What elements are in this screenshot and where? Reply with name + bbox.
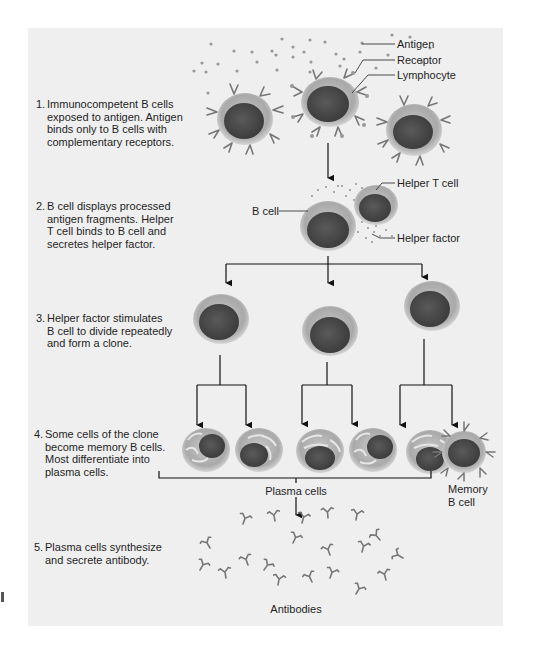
step-5-text: Plasma cells synthesize and secrete anti…: [45, 541, 162, 566]
label-antigen: Antigen: [397, 38, 434, 50]
edge-mark: [1, 592, 4, 602]
step-2-text: B cell displays processed antigen fragme…: [47, 200, 174, 250]
antibodies: [195, 508, 406, 597]
clone-branch-lines: [226, 256, 422, 283]
step-1-number: 1.: [36, 98, 45, 111]
memory-b-cell: [433, 422, 495, 481]
label-b-cell: B cell: [252, 205, 279, 217]
lymphocyte-right: [377, 96, 450, 165]
label-plasma-cells: Plasma cells: [256, 485, 336, 497]
leader-lines-top: [352, 44, 395, 93]
step-5-number: 5.: [34, 541, 43, 554]
step-4-number: 4.: [34, 428, 43, 441]
helper-t-cell: [354, 185, 398, 225]
b-cell: [300, 201, 356, 251]
label-helper-t-cell: Helper T cell: [397, 177, 458, 189]
plasma-cells: [182, 428, 454, 474]
lymphocyte-left: [207, 84, 283, 154]
step-2-number: 2.: [36, 200, 45, 213]
label-receptor: Receptor: [397, 54, 442, 66]
label-antibodies: Antibodies: [256, 603, 336, 615]
step-3-number: 3.: [36, 312, 45, 325]
step-4-text: Some cells of the clone become memory B …: [45, 428, 165, 478]
step-3-text: Helper factor stimulates B cell to divid…: [47, 312, 172, 350]
lymphocyte-center: [290, 69, 369, 138]
step-1-text: Immunocompetent B cells exposed to antig…: [47, 98, 183, 148]
clone-cell-left: [193, 294, 249, 344]
label-lymphocyte: Lymphocyte: [397, 69, 456, 81]
clone-cell-right: [404, 281, 460, 331]
clone-cell-middle: [302, 306, 358, 356]
label-memory-b-cell: Memory B cell: [448, 483, 488, 509]
label-helper-factor: Helper factor: [397, 232, 460, 244]
